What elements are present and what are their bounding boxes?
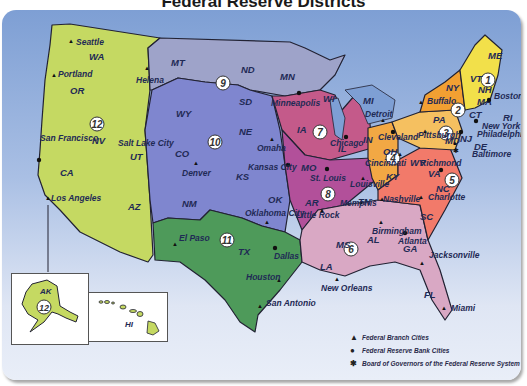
state-label-ut: UT [130,151,144,162]
state-label-wi: WI [323,93,335,104]
hawaii-inset: HI [88,292,168,342]
bank-city-icon [37,158,41,162]
city-label-boston: Boston [494,91,521,101]
state-label-mo: MO [301,162,317,173]
city-label-denver: Denver [182,168,212,178]
bank-city-icon [439,168,443,172]
dot-icon: ● [350,346,362,355]
state-label-nj: NJ [460,133,473,144]
legend-label: Board of Governors of the Federal Reserv… [362,360,520,367]
alaska-inset: AK 12 [11,273,89,345]
branch-city-icon: ▲ [51,72,57,78]
branch-city-icon: ▲ [441,305,447,311]
board-of-governors-icon: ✱ [453,147,459,154]
city-label-nashville: Nashville [383,194,421,204]
city-label-los-angeles: Los Angeles [51,193,101,203]
legend-item-branch-cities: ▲ Federal Branch Cities [350,331,520,344]
state-label-hi: HI [125,320,134,329]
state-label-ok: OK [268,194,283,205]
state-label-ca: CA [60,167,74,178]
branch-city-icon: ▲ [264,219,270,225]
district-7-marker[interactable]: 7 [313,125,327,139]
branch-city-icon: ▲ [257,303,263,309]
state-label-mi: MI [363,95,374,106]
legend-item-bank-cities: ● Federal Reserve Bank Cities [350,344,520,357]
map-panel: 1 2 3 4 5 6 7 8 9 10 11 12 WA OR CA NV U… [2,10,521,380]
district-12-marker[interactable]: 12 [90,117,104,131]
city-label-detroit: Detroit [365,109,394,119]
city-label-el-paso: El Paso [179,233,210,243]
bank-city-icon [487,98,491,102]
city-label-minneapolis: Minneapolis [271,98,320,108]
svg-text:8: 8 [325,189,331,200]
svg-text:10: 10 [209,137,221,148]
state-label-in: IN [363,134,374,145]
bank-city-icon [474,119,478,123]
city-label-louisville: Louisville [350,179,389,189]
city-label-atlanta: Atlanta [397,236,427,246]
branch-city-icon: ▲ [68,38,74,44]
legend-label: Federal Branch Cities [362,334,429,341]
branch-city-icon: ▲ [452,140,458,146]
legend-label: Federal Reserve Bank Cities [362,347,449,354]
city-label-omaha: Omaha [257,143,286,153]
city-label-miami: Miami [451,303,476,313]
branch-city-icon: ▲ [378,219,384,225]
city-label-jacksonville: Jacksonville [429,250,480,260]
city-label-salt-lake-city: Salt Lake City [118,138,175,148]
branch-city-icon: ▲ [419,260,425,266]
branch-city-icon: ▲ [397,151,403,157]
district-9-marker[interactable]: 9 [216,76,230,90]
city-label-seattle: Seattle [76,37,104,47]
svg-text:12: 12 [91,119,103,130]
district-12-alaska-marker: 12 [39,303,49,313]
svg-text:2: 2 [454,105,461,116]
state-label-ar: AR [304,197,319,208]
bank-city-icon [325,167,329,171]
city-label-little-rock: Little Rock [296,210,341,220]
triangle-icon: ▲ [350,333,362,342]
state-label-ia: IA [297,124,307,135]
svg-text:7: 7 [317,127,323,138]
bank-city-icon [297,91,301,95]
city-label-birmingham: Birmingham [372,226,422,236]
district-10-marker[interactable]: 10 [208,135,222,149]
state-label-ms: MS [336,239,351,250]
state-label-fl: FL [424,289,436,300]
state-label-mn: MN [280,71,296,82]
city-label-dallas: Dallas [274,251,299,261]
city-label-houston: Houston [246,272,280,282]
state-label-mt: MT [171,57,186,68]
city-label-san-francisco: San Francisco [40,133,98,143]
city-label-cincinnati: Cincinnati [365,158,407,168]
svg-text:11: 11 [222,235,233,246]
state-label-me: ME [488,50,503,61]
city-label-pittsburgh: Pittsburgh [418,130,461,140]
svg-text:9: 9 [220,78,226,89]
state-label-ct: CT [469,109,483,120]
city-label-charlotte: Charlotte [428,192,466,202]
city-label-new-york: New York [482,121,521,131]
branch-city-icon: ▲ [193,160,199,166]
district-11-marker[interactable]: 11 [220,233,234,247]
state-label-ne: NE [239,126,253,137]
star-icon: ✱ [350,359,362,368]
city-label-richmond: Richmond [420,158,462,168]
state-label-nm: NM [182,198,198,209]
state-label-wy: WY [176,108,193,119]
bank-city-icon [273,246,277,250]
branch-city-icon: ▲ [334,276,340,282]
state-label-ks: KS [236,171,250,182]
state-label-co: CO [175,148,190,159]
city-label-st-louis: St. Louis [310,173,346,183]
state-label-la: LA [320,261,333,272]
state-label-wa: WA [89,51,104,62]
state-label-ak: AK [39,287,53,296]
district-8-marker[interactable]: 8 [321,187,335,201]
legend-item-board-of-governors: ✱ Board of Governors of the Federal Rese… [350,357,520,370]
city-label-baltimore: Baltimore [472,149,511,159]
city-label-memphis: Memphis [340,198,377,208]
state-label-sd: SD [239,96,252,107]
branch-city-icon: ▲ [269,136,275,142]
city-label-kansas-city: Kansas City [248,162,298,172]
